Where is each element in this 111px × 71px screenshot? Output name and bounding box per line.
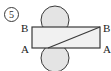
vertex-label-b-left: B (21, 23, 28, 34)
vertex-label-b-right: B (103, 23, 110, 34)
problem-number-badge: 5 (4, 7, 19, 22)
rectangle-body (32, 27, 100, 48)
vertex-label-a-right: A (103, 44, 111, 55)
geometry-figure: 5 B A B A (0, 0, 111, 71)
vertex-label-a-left: A (21, 44, 29, 55)
problem-number-text: 5 (9, 10, 14, 20)
